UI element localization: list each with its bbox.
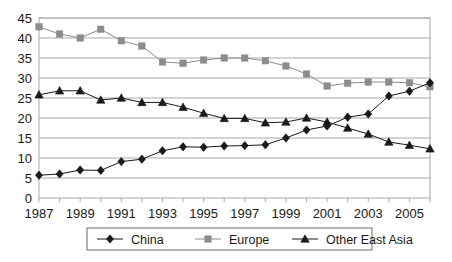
data-point-square	[283, 63, 289, 69]
y-axis-tick-label: 30	[18, 71, 32, 86]
y-axis-tick-label: 35	[18, 51, 32, 66]
data-point-square	[221, 55, 227, 61]
data-point-square	[159, 59, 165, 65]
chart-container: 051015202530354045 198719891991199319951…	[0, 0, 452, 262]
x-axis-tick-label: 1991	[107, 206, 136, 221]
data-point-square	[180, 60, 186, 66]
x-axis-tick-label: 1995	[189, 206, 218, 221]
legend-label: Other East Asia	[326, 233, 413, 247]
y-axis-tick-label: 45	[18, 11, 32, 26]
data-point-square	[262, 58, 268, 64]
legend: ChinaEuropeOther East Asia	[87, 228, 413, 250]
data-point-square	[303, 71, 309, 77]
data-point-square	[324, 83, 330, 89]
y-axis-tick-label: 10	[18, 151, 32, 166]
x-axis-tick-label: 1999	[271, 206, 300, 221]
data-point-square	[344, 80, 350, 86]
x-axis-tick-label: 1997	[230, 206, 259, 221]
data-point-square	[56, 31, 62, 37]
y-axis-tick-label: 5	[25, 171, 32, 186]
line-chart: 051015202530354045 198719891991199319951…	[0, 0, 452, 262]
y-axis-tick-label: 0	[25, 191, 32, 206]
x-axis-tick-label: 1989	[66, 206, 95, 221]
data-point-square	[118, 38, 124, 44]
x-axis-tick-label: 1993	[148, 206, 177, 221]
legend-label: Europe	[229, 233, 269, 247]
x-axis-tick-label: 2005	[395, 206, 424, 221]
data-point-square	[205, 236, 211, 242]
data-point-square	[139, 43, 145, 49]
legend-label: China	[131, 233, 164, 247]
chart-background	[0, 0, 452, 262]
data-point-square	[365, 79, 371, 85]
data-point-square	[77, 35, 83, 41]
x-axis-tick-label: 2003	[354, 206, 383, 221]
y-axis-tick-label: 25	[18, 91, 32, 106]
x-axis-tick-label: 2001	[313, 206, 342, 221]
data-point-square	[98, 26, 104, 32]
x-axis-tick-label: 1987	[25, 206, 54, 221]
data-point-square	[386, 79, 392, 85]
y-axis-tick-label: 15	[18, 131, 32, 146]
data-point-square	[242, 55, 248, 61]
data-point-square	[200, 57, 206, 63]
data-point-square	[406, 80, 412, 86]
y-axis-tick-label: 20	[18, 111, 32, 126]
data-point-square	[36, 24, 42, 30]
y-axis-tick-label: 40	[18, 31, 32, 46]
